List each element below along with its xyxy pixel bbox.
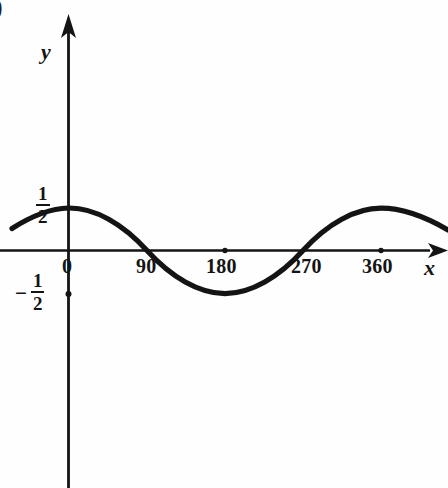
y-tick-label-negative-half: − 1 2 — [15, 271, 44, 314]
x-axis-label: x — [424, 257, 435, 279]
minus-sign-icon: − — [15, 283, 27, 304]
fraction-numerator: 1 — [36, 184, 50, 203]
coordinate-plot-svg — [0, 0, 448, 488]
x-tick-label-270: 270 — [291, 256, 322, 276]
x-tick-label-180: 180 — [206, 256, 237, 276]
x-tick-label-90: 90 — [136, 256, 156, 276]
x-tick-dot-360 — [378, 248, 383, 253]
x-tick-label-0: 0 — [62, 256, 72, 276]
fraction-denominator-neg: 2 — [31, 294, 45, 313]
y-tick-label-positive-half: 1 2 — [36, 184, 50, 227]
y-tick-dot-neg-half — [66, 291, 72, 297]
signed-fraction-neg-one-half: − 1 2 — [15, 271, 44, 314]
graph-figure: ) y x 0 90 180 270 360 1 2 — [0, 0, 448, 488]
fraction-one-half-neg: 1 2 — [31, 271, 45, 314]
fraction-numerator-neg: 1 — [31, 271, 45, 290]
y-axis-label: y — [41, 41, 51, 63]
x-tick-dot-180 — [222, 248, 227, 253]
fraction-denominator: 2 — [36, 207, 50, 226]
fraction-one-half: 1 2 — [36, 184, 50, 227]
x-tick-label-360: 360 — [362, 256, 393, 276]
